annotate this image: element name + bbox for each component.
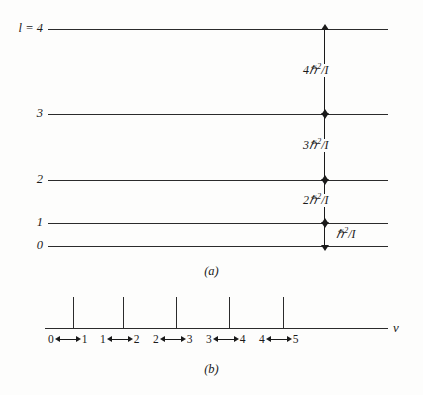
- gap-denominator: /I: [321, 63, 328, 77]
- energy-level-line-l2: [48, 180, 388, 181]
- transition-to: 1: [82, 334, 88, 346]
- transition-label-3-4: 3 4: [206, 334, 246, 346]
- spectral-line-4: [229, 297, 230, 328]
- energy-level-label-l0: 0: [0, 239, 43, 252]
- hbar-symbol: ℏ: [309, 63, 317, 77]
- frequency-axis: [45, 328, 388, 329]
- transition-label-2-3: 2 3: [153, 334, 193, 346]
- energy-level-label-l4: l = 4: [0, 22, 43, 35]
- transition-from: 2: [153, 334, 159, 346]
- energy-level-line-l0: [48, 246, 388, 247]
- transition-to: 3: [187, 334, 193, 346]
- panel-b-caption: (b): [0, 362, 423, 377]
- transition-label-4-5: 4 5: [259, 334, 299, 346]
- transition-to: 2: [134, 334, 140, 346]
- hbar-symbol: ℏ: [309, 138, 317, 152]
- gap-denominator: /I: [321, 193, 328, 207]
- transition-label-1-2: 1 2: [100, 334, 140, 346]
- spectral-line-5: [283, 297, 284, 328]
- transition-label-0-1: 0 1: [48, 334, 88, 346]
- panel-a-caption: (a): [0, 264, 423, 279]
- energy-level-label-l3: 3: [0, 107, 43, 120]
- transition-from: 0: [48, 334, 54, 346]
- rotational-energy-level-figure: l = 4 3 2 1 0 4ℏ2/I 3ℏ2/I 2ℏ2/I ℏ2/I (a): [0, 0, 423, 395]
- energy-gap-arrow-0-to-1: [324, 224, 325, 245]
- spectral-line-1: [73, 297, 74, 328]
- transition-from: 4: [259, 334, 265, 346]
- transition-to: 5: [293, 334, 299, 346]
- energy-level-line-l4: [48, 29, 388, 30]
- energy-gap-label-3-to-4: 4ℏ2/I: [301, 64, 331, 77]
- hbar-symbol: ℏ: [309, 193, 317, 207]
- energy-gap-label-0-to-1: ℏ2/I: [334, 228, 358, 241]
- energy-gap-label-2-to-3: 3ℏ2/I: [301, 139, 331, 152]
- energy-level-label-l2: 2: [0, 173, 43, 186]
- double-arrow-icon: [55, 336, 81, 343]
- spectral-line-3: [176, 297, 177, 328]
- double-arrow-icon: [266, 336, 292, 343]
- frequency-axis-label: ν: [393, 320, 399, 336]
- hbar-symbol: ℏ: [336, 227, 344, 241]
- spectral-line-2: [123, 297, 124, 328]
- double-arrow-icon: [213, 336, 239, 343]
- energy-gap-label-1-to-2: 2ℏ2/I: [301, 194, 331, 207]
- energy-level-line-l1: [48, 223, 388, 224]
- energy-level-line-l3: [48, 114, 388, 115]
- transition-to: 4: [240, 334, 246, 346]
- double-arrow-icon: [160, 336, 186, 343]
- transition-from: 3: [206, 334, 212, 346]
- gap-denominator: /I: [321, 138, 328, 152]
- double-arrow-icon: [107, 336, 133, 343]
- transition-from: 1: [100, 334, 106, 346]
- energy-level-label-l1: 1: [0, 216, 43, 229]
- gap-denominator: /I: [348, 227, 355, 241]
